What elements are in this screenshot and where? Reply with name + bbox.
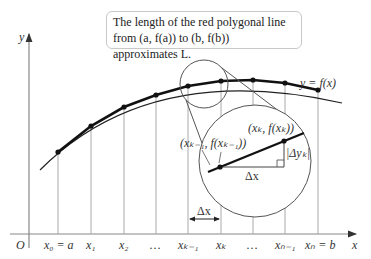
svg-text:x₁: x₁ [85, 238, 96, 252]
svg-text:xₙ = b: xₙ = b [304, 238, 335, 252]
dy-label: |Δyₖ| [286, 146, 310, 160]
point-right-label: (xₖ, f(xₖ)) [248, 121, 294, 135]
curve-label: y = f(x) [299, 76, 336, 90]
y-axis-label: y [18, 30, 25, 44]
svg-text:x₀ = a: x₀ = a [43, 238, 74, 252]
caption-line-2: from (a, f(a)) to (b, f(b)) approximates… [113, 30, 295, 62]
point-left-label: (xₖ₋₁, f(xₖ₋₁)) [180, 136, 246, 150]
zoom-point-left [217, 164, 222, 169]
interval-label: Δx [197, 204, 211, 218]
svg-text:xₖ₋₁: xₖ₋₁ [177, 238, 199, 252]
caption-box: The length of the red polygonal line fro… [106, 11, 302, 49]
svg-text:x₂: x₂ [118, 238, 129, 252]
caption-line-1: The length of the red polygonal line [113, 14, 295, 30]
svg-text:…: … [149, 238, 161, 252]
zoom-point-right [281, 138, 286, 143]
dx-label: Δx [245, 169, 259, 183]
x-axis-label: x [351, 238, 358, 252]
svg-text:…: … [246, 238, 258, 252]
tick-labels: x₀ = a x₁ x₂ … xₖ₋₁ xₖ … xₙ₋₁ xₙ = b [43, 238, 335, 252]
svg-text:xₙ₋₁: xₙ₋₁ [274, 238, 296, 252]
svg-text:xₖ: xₖ [215, 238, 227, 252]
origin-label: O [16, 238, 25, 252]
